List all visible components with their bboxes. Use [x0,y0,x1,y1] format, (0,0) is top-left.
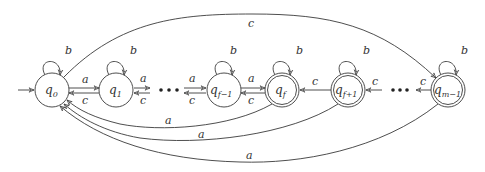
state-qm-1: qm−1 [431,73,465,107]
loop-label-qf+1: b [363,44,370,57]
label-qm-1-q0: a [246,149,253,162]
loop-label-q1: b [130,44,137,57]
state-qf: qf [265,73,299,107]
loop-label-qf-1: b [230,44,237,57]
label-qf-qf-1: c [248,94,254,107]
label-qf-1-dots: c [189,94,195,107]
state-q1: q1 [99,73,133,107]
loop-label-qm-1: b [461,44,468,57]
ellipsis-left [159,88,179,92]
label-qf-q0: a [165,114,172,127]
label-qm-1-dots: c [420,75,426,88]
state-qf-1: qf−1 [207,73,241,107]
loop-label-qf: b [296,44,303,57]
label-dots-qf-1: a [189,72,196,85]
label-qf+1-q0: a [198,128,205,141]
label-q0-q1: a [82,73,89,86]
label-qf+1-qf: c [312,75,318,88]
label-q0-qm-1: c [248,17,254,30]
label-q1-dots: a [140,72,147,85]
label-dots-q1: c [140,94,146,107]
label-dots-qf+1: c [372,75,378,88]
automaton-diagram: b b b b b b a c a c a c a c c c c c a [0,0,485,172]
ellipsis-right [391,88,409,92]
loop-label-q0: b [65,44,72,57]
state-q0: q0 [35,73,69,107]
state-qf+1: qf+1 [331,73,365,107]
label-qf-1-qf: a [248,72,255,85]
label-q1-q0: c [82,94,88,107]
